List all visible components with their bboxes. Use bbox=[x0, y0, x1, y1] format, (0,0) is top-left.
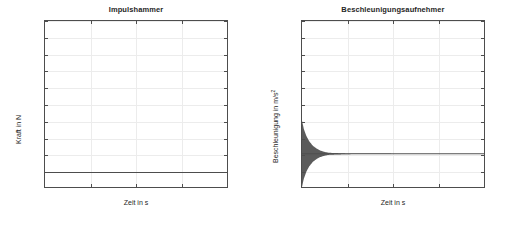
tick-mark bbox=[182, 184, 183, 187]
tick-mark bbox=[224, 105, 227, 106]
tick-mark bbox=[45, 55, 48, 56]
y-axis-title-right: Beschleunigung in m/s2 bbox=[270, 90, 279, 163]
chart-title-right: Beschleunigungsaufnehmer bbox=[256, 5, 485, 14]
tick-mark bbox=[224, 139, 227, 140]
tick-mark bbox=[224, 71, 227, 72]
x-axis-title-right: Zeit in s bbox=[301, 199, 485, 206]
plot-area-left: 900 800 700 600 500 bbox=[44, 20, 228, 188]
y-axis-title-left: Kraft in N bbox=[15, 115, 22, 144]
y-axis-title-right-exponent: 2 bbox=[270, 90, 276, 93]
figure-canvas: Impulshammer Kraft in N Zeit in s 90 bbox=[0, 0, 513, 230]
tick-mark bbox=[45, 38, 48, 39]
tick-mark bbox=[136, 184, 137, 187]
tick-mark bbox=[182, 21, 183, 24]
gridline-v bbox=[91, 21, 92, 187]
chart-panel-beschleunigungsaufnehmer: Beschleunigungsaufnehmer Beschleunigung … bbox=[256, 0, 512, 230]
tick-mark bbox=[45, 21, 48, 22]
data-trace-acceleration bbox=[302, 21, 484, 187]
data-trace-force bbox=[45, 172, 227, 173]
chart-panel-impulshammer: Impulshammer Kraft in N Zeit in s 90 bbox=[0, 0, 256, 230]
tick-mark bbox=[224, 155, 227, 156]
chart-title-left: Impulshammer bbox=[0, 5, 228, 14]
tick-mark bbox=[224, 122, 227, 123]
plot-area-right: 800 700 600 500 400 bbox=[301, 20, 485, 188]
x-axis-title-left: Zeit in s bbox=[44, 199, 228, 206]
tick-mark bbox=[45, 71, 48, 72]
tick-mark bbox=[45, 155, 48, 156]
tick-mark bbox=[45, 122, 48, 123]
tick-mark bbox=[91, 21, 92, 24]
tick-mark bbox=[224, 55, 227, 56]
gridline-v bbox=[182, 21, 183, 187]
tick-mark bbox=[136, 21, 137, 24]
tick-mark bbox=[224, 38, 227, 39]
tick-mark bbox=[45, 139, 48, 140]
tick-mark bbox=[224, 21, 227, 22]
gridline-v bbox=[136, 21, 137, 187]
tick-mark bbox=[91, 184, 92, 187]
tick-mark bbox=[45, 88, 48, 89]
y-axis-title-right-text: Beschleunigung in m/s bbox=[272, 93, 279, 163]
tick-mark bbox=[224, 88, 227, 89]
tick-mark bbox=[45, 105, 48, 106]
